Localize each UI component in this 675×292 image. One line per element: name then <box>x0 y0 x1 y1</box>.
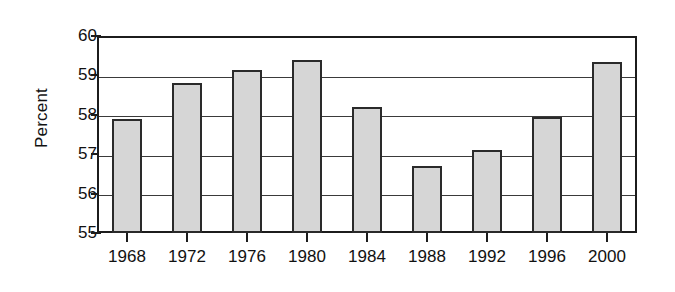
bar-series <box>97 36 637 233</box>
x-tick-mark <box>306 233 308 242</box>
bar <box>292 60 322 233</box>
bar <box>532 117 562 233</box>
y-tick: 56 <box>41 194 97 195</box>
x-tick-mark <box>186 233 188 242</box>
y-tick: 58 <box>41 115 97 116</box>
bar <box>592 62 622 233</box>
x-tick-mark <box>546 233 548 242</box>
bar <box>172 83 202 233</box>
x-tick-mark <box>366 233 368 242</box>
bar <box>112 119 142 233</box>
y-tick: 59 <box>41 75 97 76</box>
bar <box>412 166 442 233</box>
y-tick: 60 <box>41 36 97 37</box>
x-tick-mark <box>426 233 428 242</box>
y-tick: 55 <box>41 233 97 234</box>
x-tick-mark <box>126 233 128 242</box>
bar <box>472 150 502 233</box>
x-tick-mark <box>606 233 608 242</box>
bar <box>232 70 262 234</box>
x-tick-label: 2000 <box>572 247 642 266</box>
bar-chart: Percent 555657585960 1968197219761980198… <box>0 0 675 292</box>
x-tick-mark <box>246 233 248 242</box>
bar <box>352 107 382 233</box>
x-tick-mark <box>486 233 488 242</box>
y-tick: 57 <box>41 154 97 155</box>
